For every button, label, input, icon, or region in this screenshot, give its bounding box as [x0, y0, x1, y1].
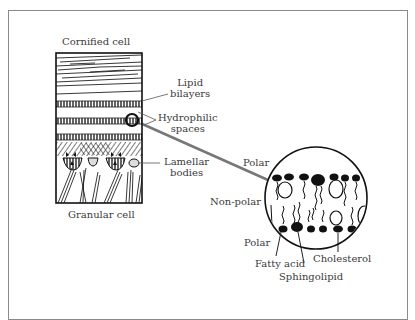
polar-bottom-label: Polar: [244, 237, 270, 248]
cholesterol-label: Cholesterol: [313, 253, 371, 264]
hydrophilic-spaces-label: Hydrophilic spaces: [158, 112, 218, 134]
cornified-cell-label: Cornified cell: [62, 36, 130, 47]
lipid-bilayers-label: Lipid bilayers: [170, 77, 210, 99]
granular-cell-label: Granular cell: [68, 209, 135, 220]
magnified-membrane: [265, 147, 370, 263]
sphingolipid-label: Sphingolipid: [279, 271, 343, 282]
polar-top-label: Polar: [243, 157, 269, 168]
fatty-acid-label: Fatty acid: [255, 258, 305, 269]
non-polar-label: Non-polar: [210, 196, 261, 207]
lamellar-bodies-label: Lamellar bodies: [164, 156, 209, 178]
cell-section: [56, 53, 142, 203]
